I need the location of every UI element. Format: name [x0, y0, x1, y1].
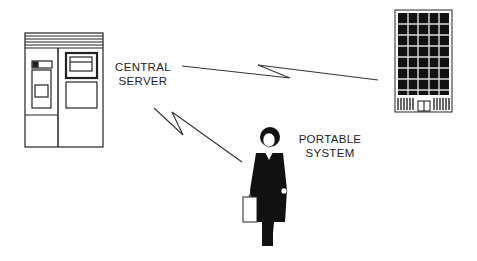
diagram-canvas: [0, 0, 477, 261]
label-central-server: CENTRAL SERVER: [108, 60, 178, 88]
wireless-link-server-portable: [154, 108, 242, 162]
wireless-link-server-building: [182, 65, 378, 80]
label-line: SYSTEM: [294, 146, 366, 160]
label-line: SERVER: [108, 74, 178, 88]
server-cabinet-icon: [25, 33, 103, 147]
businesswoman-icon: [243, 127, 287, 246]
office-building-icon: [395, 10, 452, 112]
label-line: CENTRAL: [108, 60, 178, 74]
label-portable-system: PORTABLE SYSTEM: [294, 132, 366, 160]
label-line: PORTABLE: [294, 132, 366, 146]
